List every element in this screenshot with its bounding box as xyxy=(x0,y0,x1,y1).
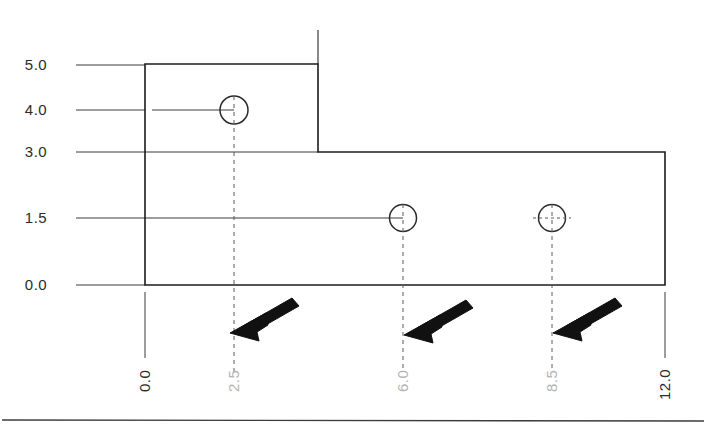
y-tick-label-4: 4.0 xyxy=(25,101,47,118)
arrow-3 xyxy=(553,298,622,341)
holes-group xyxy=(220,96,566,232)
y-axis-labels: 5.0 4.0 3.0 1.5 0.0 xyxy=(25,56,47,293)
x-axis-labels: 0.0 2.5 6.0 8.5 12.0 xyxy=(136,369,673,400)
arrow-1-head xyxy=(230,313,268,341)
x-tick-label-2p5: 2.5 xyxy=(225,370,242,392)
annotation-arrows xyxy=(230,298,622,343)
arrow-1 xyxy=(230,298,299,341)
arrow-2-head xyxy=(404,315,442,343)
x-tick-label-6: 6.0 xyxy=(394,370,411,392)
x-tick-label-8p5: 8.5 xyxy=(543,370,560,392)
footer-separator-rule xyxy=(2,420,704,421)
arrow-3-head xyxy=(553,313,591,341)
technical-drawing-viewport: 5.0 4.0 3.0 1.5 0.0 xyxy=(0,0,706,445)
drawing-canvas: 5.0 4.0 3.0 1.5 0.0 xyxy=(0,0,706,445)
x-tick-label-0: 0.0 xyxy=(136,370,153,392)
hole-centerlines-vertical xyxy=(234,96,552,372)
arrow-2 xyxy=(404,300,473,343)
part-profile-outline xyxy=(145,64,665,285)
y-tick-label-1p5: 1.5 xyxy=(25,209,47,226)
y-tick-label-3: 3.0 xyxy=(25,143,47,160)
y-tick-label-0: 0.0 xyxy=(25,276,47,293)
y-axis-leader-lines xyxy=(76,65,145,285)
x-tick-label-12: 12.0 xyxy=(656,369,673,400)
y-tick-label-5: 5.0 xyxy=(25,56,47,73)
interior-reference-lines xyxy=(145,110,403,218)
